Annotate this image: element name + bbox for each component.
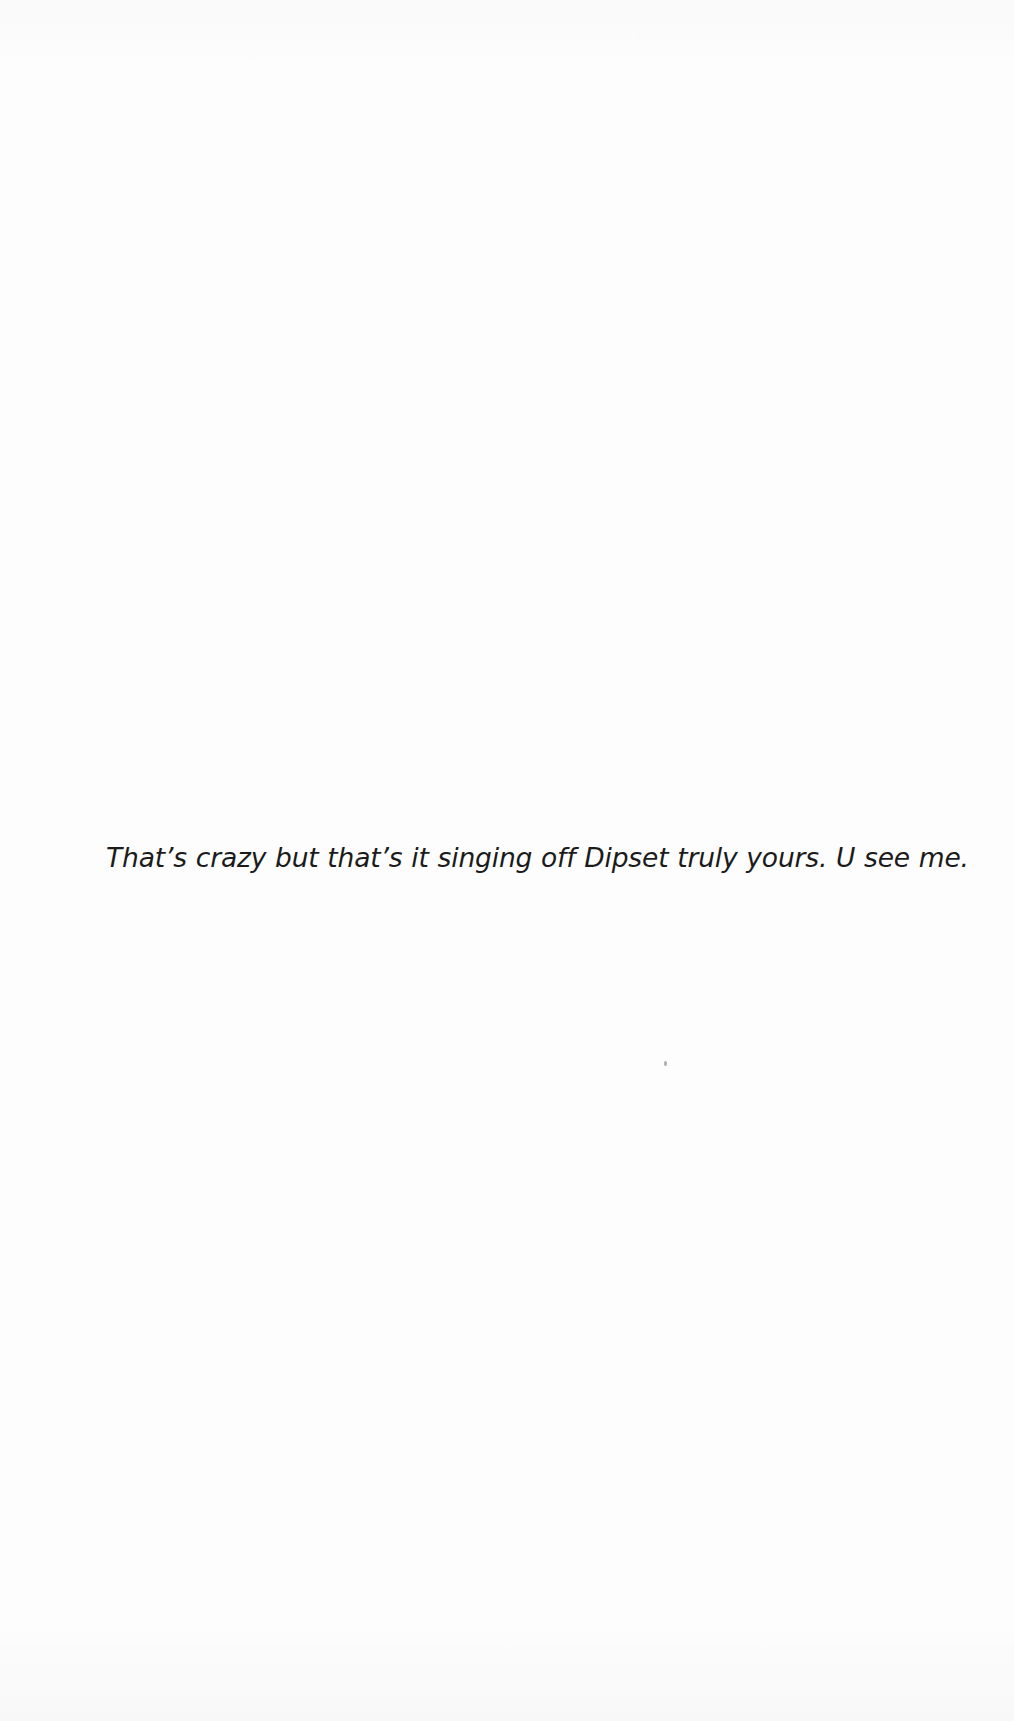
scan-speck-artifact <box>664 1061 667 1066</box>
scan-edge-shading-top <box>0 0 1014 70</box>
scanned-page: That’s crazy but that’s it singing off D… <box>0 0 1014 1721</box>
body-text-line: That’s crazy but that’s it singing off D… <box>106 841 806 875</box>
scan-edge-shading-bottom <box>0 1611 1014 1721</box>
